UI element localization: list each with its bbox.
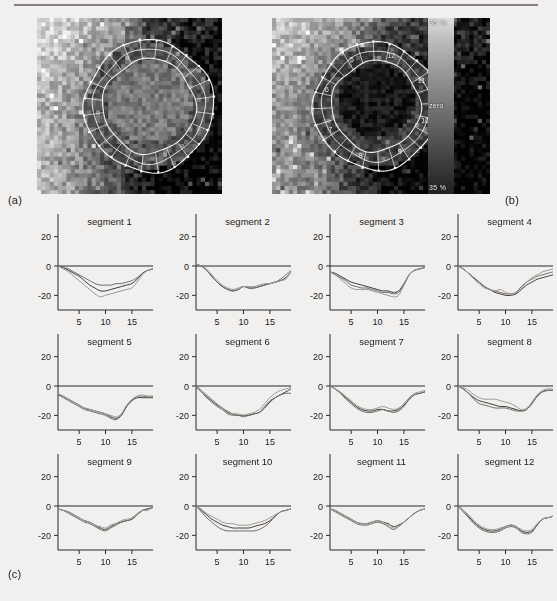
mri-canvas-a <box>37 18 222 194</box>
y-tick-label: 20 <box>441 232 451 242</box>
y-tick-label: 20 <box>441 472 451 482</box>
x-tick-label: 5 <box>215 557 220 567</box>
y-tick-label: -20 <box>438 291 451 301</box>
segment-curve <box>330 509 425 528</box>
segment-chart-title: segment 7 <box>359 336 403 347</box>
segment-chart-title: segment 8 <box>487 336 531 347</box>
chart-row: segment 1200-2051015segment 2200-2051015… <box>0 206 552 336</box>
x-tick-label: 5 <box>77 557 82 567</box>
y-tick-label: -20 <box>38 291 51 301</box>
segment-chart: segment 5200-2051015 <box>20 326 158 454</box>
segment-curve <box>196 506 291 525</box>
segment-curve <box>458 266 553 294</box>
segment-curve <box>330 386 425 411</box>
x-tick-label: 5 <box>349 557 354 567</box>
y-tick-label: -20 <box>438 531 451 541</box>
segment-curve <box>330 267 425 296</box>
y-tick-label: 20 <box>179 232 189 242</box>
segment-chart: segment 1200-2051015 <box>20 206 158 334</box>
segment-chart-title: segment 1 <box>87 216 131 227</box>
y-tick-label: 0 <box>318 262 323 272</box>
segment-chart: segment 2200-2051015 <box>158 206 296 334</box>
panel-label-b: (b) <box>505 194 519 206</box>
segment-chart: segment 8200-2051015 <box>420 326 557 454</box>
y-tick-label: -20 <box>38 411 51 421</box>
y-tick-label: 0 <box>184 382 189 392</box>
chart-row: segment 9200-2051015segment 10200-205101… <box>0 446 552 576</box>
x-tick-label: 15 <box>127 557 137 567</box>
segment-curve <box>458 386 553 411</box>
segment-chart-svg: segment 7200-2051015 <box>292 326 430 454</box>
segment-chart: segment 3200-2051015 <box>292 206 430 334</box>
panel-label-c: (c) <box>8 568 21 580</box>
x-tick-label: 10 <box>100 557 110 567</box>
segment-chart: segment 11200-2051015 <box>292 446 430 574</box>
segment-curve <box>458 266 553 294</box>
y-tick-label: 0 <box>46 262 51 272</box>
x-tick-label: 10 <box>238 557 248 567</box>
segment-curve <box>58 395 153 419</box>
colorbar: 35 % zero 35 % <box>428 18 490 194</box>
segment-chart: segment 7200-2051015 <box>292 326 430 454</box>
y-tick-label: -20 <box>176 291 189 301</box>
x-tick-label: 10 <box>372 557 382 567</box>
segment-chart-title: segment 6 <box>225 336 269 347</box>
segment-chart-title: segment 3 <box>359 216 403 227</box>
segment-chart: segment 4200-2051015 <box>420 206 557 334</box>
segment-chart-title: segment 11 <box>357 456 406 467</box>
segment-curve <box>458 506 553 531</box>
segment-chart-svg: segment 12200-2051015 <box>420 446 557 574</box>
page-top-rule <box>14 4 538 6</box>
segment-chart: segment 12200-2051015 <box>420 446 557 574</box>
y-tick-label: 20 <box>313 472 323 482</box>
y-tick-label: 20 <box>179 472 189 482</box>
y-tick-label: 20 <box>41 472 51 482</box>
segment-chart-title: segment 9 <box>87 456 131 467</box>
segment-chart-svg: segment 11200-2051015 <box>292 446 430 574</box>
y-tick-label: -20 <box>38 531 51 541</box>
segment-curve <box>330 386 425 413</box>
segment-curve <box>58 507 153 528</box>
segment-chart-svg: segment 9200-2051015 <box>20 446 158 574</box>
segment-curve <box>58 266 153 291</box>
panel-label-a: (a) <box>8 194 22 206</box>
segment-chart-svg: segment 3200-2051015 <box>292 206 430 334</box>
segment-chart-title: segment 10 <box>223 456 273 467</box>
y-tick-label: 20 <box>313 352 323 362</box>
segment-curve <box>458 266 553 296</box>
y-tick-label: 0 <box>184 262 189 272</box>
segment-curve <box>58 507 153 530</box>
x-tick-label: 15 <box>527 557 537 567</box>
segment-chart-title: segment 2 <box>225 216 269 227</box>
segment-chart-svg: segment 1200-2051015 <box>20 206 158 334</box>
y-tick-label: -20 <box>310 291 323 301</box>
segment-chart-grid: segment 1200-2051015segment 2200-2051015… <box>0 206 552 596</box>
segment-chart-svg: segment 10200-2051015 <box>158 446 296 574</box>
segment-chart-title: segment 12 <box>485 456 535 467</box>
x-tick-label: 5 <box>477 557 482 567</box>
y-tick-label: 20 <box>179 352 189 362</box>
segment-chart: segment 6200-2051015 <box>158 326 296 454</box>
segment-chart-svg: segment 4200-2051015 <box>420 206 557 334</box>
y-tick-label: -20 <box>438 411 451 421</box>
chart-row: segment 5200-2051015segment 6200-2051015… <box>0 326 552 456</box>
y-tick-label: 20 <box>41 352 51 362</box>
segment-curve <box>330 509 425 527</box>
segment-curve <box>58 266 153 285</box>
y-tick-label: 20 <box>441 352 451 362</box>
mri-panel-row: 35 % zero 35 % (a) (b) <box>0 18 552 198</box>
segment-curve <box>330 509 425 530</box>
y-tick-label: -20 <box>310 411 323 421</box>
x-tick-label: 15 <box>265 557 275 567</box>
y-tick-label: -20 <box>176 411 189 421</box>
segment-curve <box>196 265 291 290</box>
colorbar-top-label: 35 % <box>429 19 446 26</box>
segment-curve <box>458 386 553 411</box>
y-tick-label: -20 <box>176 531 189 541</box>
y-tick-label: 0 <box>184 502 189 512</box>
y-tick-label: 0 <box>46 382 51 392</box>
y-tick-label: 0 <box>446 382 451 392</box>
segment-chart: segment 9200-2051015 <box>20 446 158 574</box>
y-tick-label: 0 <box>318 382 323 392</box>
